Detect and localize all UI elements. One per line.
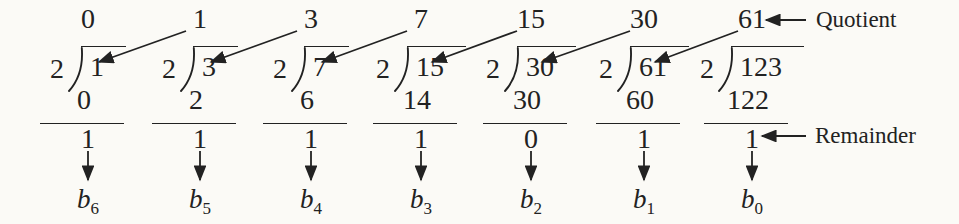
division-column: 15 2 30 30 0 b2: [471, 0, 591, 224]
product-value: 122: [688, 85, 808, 115]
divisor-value: 2: [700, 46, 714, 85]
bit-symbol: b: [741, 184, 755, 214]
quotient-value: 15: [471, 4, 591, 34]
bit-label: b0: [692, 184, 812, 214]
product-value: 14: [357, 85, 477, 115]
division-column: 1 2 3 2 1 b5: [140, 0, 260, 224]
bit-subscript: 3: [424, 199, 433, 218]
quotient-callout-label: Quotient: [816, 7, 897, 33]
divisor-value: 2: [599, 46, 613, 85]
product-value: 6: [247, 85, 367, 115]
divisor-value: 2: [273, 46, 287, 85]
bit-subscript: 1: [647, 199, 656, 218]
quotient-value: 3: [251, 4, 371, 34]
quotient-value: 61: [692, 4, 812, 34]
division-column: 3 2 7 6 1 b4: [251, 0, 371, 224]
bit-symbol: b: [633, 184, 647, 214]
bit-label: b2: [471, 184, 591, 214]
divisor-value: 2: [376, 46, 390, 85]
bit-subscript: 0: [755, 199, 764, 218]
quotient-value: 7: [361, 4, 481, 34]
dividend-value: 7: [304, 46, 349, 82]
divisor-value: 2: [50, 46, 64, 85]
bit-label: b4: [251, 184, 371, 214]
dividend-value: 123: [731, 46, 804, 82]
dividend-value: 3: [193, 46, 238, 82]
bit-symbol: b: [77, 184, 91, 214]
bit-label: b1: [584, 184, 704, 214]
bit-subscript: 6: [91, 199, 100, 218]
quotient-value: 30: [584, 4, 704, 34]
division-column: 30 2 61 60 1 b1: [584, 0, 704, 224]
bit-symbol: b: [300, 184, 314, 214]
bit-label: b3: [361, 184, 481, 214]
quotient-value: 1: [140, 4, 260, 34]
dividend-value: 15: [407, 46, 466, 82]
bit-label: b6: [28, 184, 148, 214]
bit-subscript: 4: [314, 199, 323, 218]
product-value: 60: [580, 85, 700, 115]
division-column: 0 2 1 0 1 b6: [28, 0, 148, 224]
remainder-value: 1: [692, 124, 812, 154]
remainder-value: 1: [361, 124, 481, 154]
product-value: 2: [136, 85, 256, 115]
product-value: 30: [467, 85, 587, 115]
divisor-value: 2: [486, 46, 500, 85]
division-column: 7 2 15 14 1 b3: [361, 0, 481, 224]
bit-symbol: b: [520, 184, 534, 214]
bit-subscript: 2: [534, 199, 543, 218]
division-column: 61 2 123 122 1 b0: [692, 0, 812, 224]
bit-symbol: b: [189, 184, 203, 214]
remainder-value: 1: [584, 124, 704, 154]
bit-subscript: 5: [203, 199, 212, 218]
dividend-value: 61: [630, 46, 689, 82]
dividend-value: 30: [517, 46, 576, 82]
dividend-value: 1: [81, 46, 126, 82]
remainder-value: 1: [251, 124, 371, 154]
divisor-value: 2: [162, 46, 176, 85]
remainder-value: 1: [140, 124, 260, 154]
binary-conversion-figure: 0 2 1 0 1 b6 1 2 3 2 1 b5 3 2 7 6 1: [0, 0, 959, 224]
product-value: 0: [24, 85, 144, 115]
remainder-value: 0: [471, 124, 591, 154]
quotient-value: 0: [28, 4, 148, 34]
remainder-callout-label: Remainder: [815, 123, 916, 149]
remainder-value: 1: [28, 124, 148, 154]
bit-label: b5: [140, 184, 260, 214]
bit-symbol: b: [410, 184, 424, 214]
